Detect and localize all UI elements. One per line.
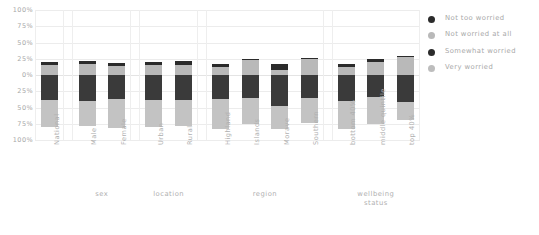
- bar-segment: [301, 75, 318, 98]
- category-label: Rural: [186, 125, 194, 145]
- bar-segment: [175, 100, 192, 127]
- legend-item[interactable]: Very worried: [428, 62, 538, 79]
- y-axis: 100%75%50%25%0%25%50%75%100%: [0, 0, 33, 235]
- bar-stack[interactable]: [79, 10, 96, 140]
- legend-item[interactable]: Not worried at all: [428, 29, 538, 46]
- bar-stack[interactable]: [145, 10, 162, 140]
- group-label: sex: [72, 190, 131, 198]
- legend-item[interactable]: Not too worried: [428, 12, 538, 29]
- legend-label: Somewhat worried: [445, 47, 516, 55]
- bar-segment: [397, 57, 414, 75]
- bar-segment: [397, 75, 414, 102]
- y-axis-tick: 50%: [17, 104, 33, 112]
- legend-swatch-icon: [428, 65, 435, 72]
- bar-segment: [79, 61, 96, 64]
- category-label: Highland: [224, 112, 232, 145]
- legend-label: Very worried: [445, 63, 493, 71]
- y-axis-tick: 25%: [17, 55, 33, 63]
- legend-item[interactable]: Somewhat worried: [428, 45, 538, 62]
- bar-segment: [271, 75, 288, 106]
- legend-label: Not too worried: [445, 14, 505, 22]
- y-axis-tick: 100%: [13, 6, 33, 14]
- y-axis-tick: 75%: [17, 120, 33, 128]
- category-label: Islands: [253, 118, 261, 145]
- category-label: Female: [120, 118, 128, 145]
- bar-segment: [212, 67, 229, 75]
- category-label: National: [53, 114, 61, 145]
- group-label: wellbeing: [332, 190, 420, 198]
- bar-segment: [212, 64, 229, 67]
- bar-segment: [108, 63, 125, 66]
- bar-segment: [212, 75, 229, 99]
- category-label: Morave: [283, 118, 291, 145]
- legend-swatch-icon: [428, 49, 435, 56]
- bar-segment: [271, 64, 288, 70]
- bar-segment: [79, 75, 96, 101]
- bar-segment: [301, 59, 318, 75]
- bar-segment: [175, 65, 192, 75]
- bar-segment: [301, 58, 318, 59]
- legend: Not too worriedNot worried at allSomewha…: [428, 12, 538, 78]
- chart-root: 100%75%50%25%0%25%50%75%100% NationalMal…: [0, 0, 539, 235]
- y-axis-tick: 75%: [17, 22, 33, 30]
- group-label: region: [206, 190, 324, 198]
- bar-segment: [242, 59, 259, 75]
- bar-segment: [338, 67, 355, 75]
- category-label: bottom 40%: [349, 99, 357, 145]
- legend-swatch-icon: [428, 16, 435, 23]
- bar-segment: [145, 65, 162, 75]
- category-label: top 40%: [408, 114, 416, 145]
- bar-segment: [41, 65, 58, 75]
- group-label: location: [139, 190, 198, 198]
- bar-segment: [41, 75, 58, 100]
- bar-segment: [79, 101, 96, 126]
- y-axis-tick: 25%: [17, 87, 33, 95]
- bar-segment: [79, 64, 96, 75]
- bar-segment: [175, 75, 192, 100]
- bar-segment: [338, 64, 355, 67]
- bar-segment: [367, 62, 384, 75]
- bar-segment: [108, 66, 125, 75]
- bar-segment: [338, 75, 355, 101]
- category-label: Southern: [312, 111, 320, 145]
- bar-segment: [175, 61, 192, 64]
- bar-stack[interactable]: [175, 10, 192, 140]
- category-label: Urban: [157, 123, 165, 145]
- bar-segment: [367, 59, 384, 62]
- y-axis-tick: 50%: [17, 39, 33, 47]
- group-label-line2: status: [332, 199, 420, 207]
- y-axis-tick: 100%: [13, 136, 33, 144]
- y-axis-tick: 0%: [22, 71, 33, 79]
- category-label: Male: [90, 127, 98, 145]
- bar-segment: [242, 75, 259, 98]
- bar-segment: [41, 62, 58, 65]
- bar-segment: [397, 56, 414, 58]
- bar-segment: [145, 62, 162, 65]
- bar-segment: [108, 75, 125, 99]
- bar-segment: [145, 75, 162, 100]
- bar-segment: [242, 59, 259, 60]
- legend-swatch-icon: [428, 32, 435, 39]
- category-label: middle quintile: [379, 88, 387, 145]
- legend-label: Not worried at all: [445, 30, 512, 38]
